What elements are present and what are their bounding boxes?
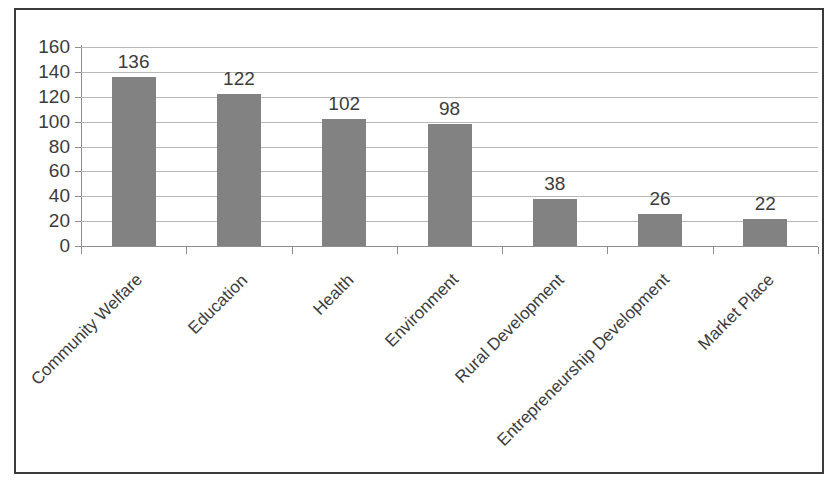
bar-value-label: 122 (199, 69, 279, 88)
chart-page: 020406080100120140160 13612210298382622 … (0, 0, 838, 489)
bar-value-label: 98 (410, 99, 490, 118)
bar-value-labels: 13612210298382622 (0, 0, 838, 489)
bar-value-label: 38 (515, 174, 595, 193)
bar-value-label: 136 (94, 52, 174, 71)
bar-value-label: 26 (620, 189, 700, 208)
bar-value-label: 22 (725, 194, 805, 213)
bar-value-label: 102 (304, 94, 384, 113)
